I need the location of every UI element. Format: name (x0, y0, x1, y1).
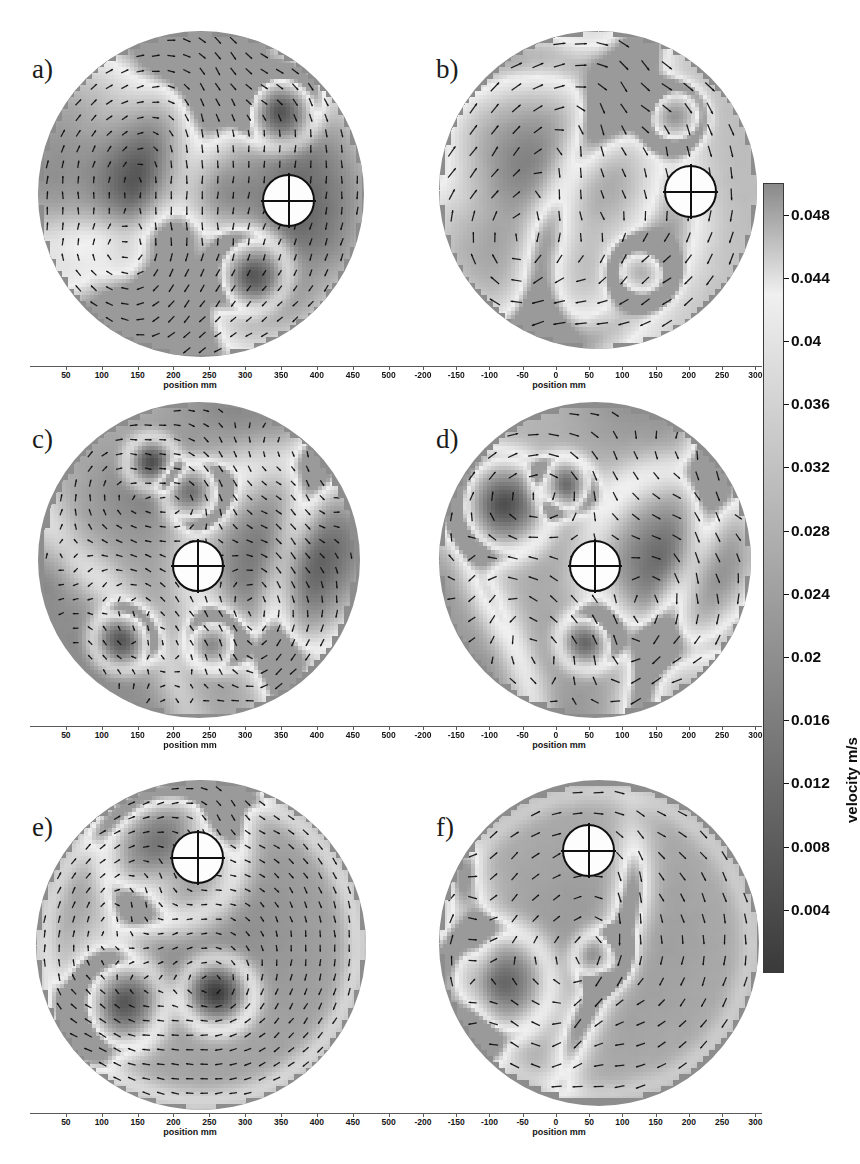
axis-tick-label: 0 (554, 1117, 559, 1127)
axis-row3-left: position mm 5010015020025030035040045050… (30, 1113, 403, 1141)
axis-tick-label: 300 (748, 1117, 762, 1127)
axis-tick-label: 500 (382, 370, 396, 380)
panel-c-probe-marker[interactable] (172, 540, 224, 592)
axis-row1-right-title: position mm (532, 380, 586, 390)
axis-tick-label: 0 (554, 370, 559, 380)
axis-tick-label: 100 (95, 1117, 109, 1127)
colorbar-tick (784, 910, 789, 911)
axis-tick-label: 250 (202, 1117, 216, 1127)
axis-tick-label: -50 (517, 730, 529, 740)
axis-tick-label: 300 (748, 370, 762, 380)
axis-tick-label: 150 (131, 1117, 145, 1127)
panel-c-plot-area (38, 402, 360, 718)
colorbar-tick (784, 657, 789, 658)
axis-tick-label: 300 (238, 730, 252, 740)
axis-tick-label: 500 (382, 730, 396, 740)
axis-tick-label: 100 (615, 730, 629, 740)
axis-tick-label: 100 (615, 1117, 629, 1127)
axis-tick-label: 0 (554, 730, 559, 740)
axis-tick-label: 200 (166, 730, 180, 740)
axis-tick-label: -200 (414, 1117, 431, 1127)
axis-row1-left-title: position mm (163, 380, 217, 390)
colorbar-tick (784, 467, 789, 468)
colorbar-tick-label: 0.004 (791, 902, 830, 918)
axis-row2-right-title: position mm (532, 740, 586, 750)
axis-tick-label: 150 (131, 370, 145, 380)
axis-tick-label: 450 (346, 1117, 360, 1127)
panel-f: f) (427, 762, 757, 1107)
axis-row2-left-line (30, 726, 403, 727)
axis-row3-left-line (30, 1113, 403, 1114)
axis-tick-label: -100 (481, 1117, 498, 1127)
colorbar-group: 0.0040.0080.0120.0160.020.0240.0280.0320… (763, 183, 854, 973)
colorbar-tick-label: 0.032 (791, 459, 830, 475)
axis-row1-left: position mm 5010015020025030035040045050… (30, 366, 403, 394)
axis-tick-label: 300 (238, 370, 252, 380)
axis-row1-left-line (30, 366, 403, 367)
axis-tick-label: 100 (95, 370, 109, 380)
colorbar-tick (784, 278, 789, 279)
panel-d-probe-marker[interactable] (569, 540, 621, 592)
axis-tick-label: 50 (584, 370, 593, 380)
axis-tick-label: 250 (715, 370, 729, 380)
axis-tick-label: 200 (166, 370, 180, 380)
colorbar-tick (784, 531, 789, 532)
colorbar-tick (784, 404, 789, 405)
axis-tick-label: 200 (682, 730, 696, 740)
colorbar-tick-label: 0.04 (791, 333, 821, 349)
axis-tick-label: 50 (584, 730, 593, 740)
axis-tick-label: 400 (310, 370, 324, 380)
colorbar-tick-label: 0.008 (791, 839, 830, 855)
axis-tick-label: 400 (310, 730, 324, 740)
axis-tick-label: 100 (95, 730, 109, 740)
axis-row3-right: position mm -200-150-100-500501001502002… (403, 1113, 762, 1141)
panel-b-plot-area (439, 31, 757, 349)
axis-tick-label: 200 (682, 370, 696, 380)
colorbar-tick (784, 783, 789, 784)
axis-tick-label: -150 (448, 730, 465, 740)
axis-tick-label: 300 (238, 1117, 252, 1127)
axis-tick-label: -150 (448, 1117, 465, 1127)
axis-tick-label: 150 (131, 730, 145, 740)
axis-row2-left: position mm 5010015020025030035040045050… (30, 726, 403, 754)
panel-e-plot-area (36, 780, 366, 1110)
axis-tick-label: -200 (414, 370, 431, 380)
axis-tick-label: 50 (61, 730, 70, 740)
axis-tick-label: 50 (584, 1117, 593, 1127)
panel-a-probe-marker[interactable] (262, 174, 315, 227)
axis-tick-label: -50 (517, 370, 529, 380)
axis-row3-left-title: position mm (163, 1127, 217, 1137)
axis-tick-label: 400 (310, 1117, 324, 1127)
axis-row2-left-title: position mm (163, 740, 217, 750)
colorbar-tick-label: 0.012 (791, 775, 830, 791)
axis-row1-right: position mm -200-150-100-500501001502002… (403, 366, 762, 394)
panel-e-probe-marker[interactable] (171, 831, 224, 884)
colorbar-tick-label: 0.044 (791, 270, 830, 286)
colorbar-gradient (763, 183, 784, 973)
colorbar-tick-label: 0.048 (791, 207, 830, 223)
axis-tick-label: 150 (649, 1117, 663, 1127)
axis-tick-label: 250 (202, 370, 216, 380)
axis-tick-label: 450 (346, 730, 360, 740)
panel-f-probe-marker[interactable] (562, 824, 615, 877)
panel-a-velocity-map (38, 31, 364, 357)
axis-tick-label: 500 (382, 1117, 396, 1127)
panel-b-probe-marker[interactable] (664, 165, 717, 218)
colorbar-tick-label: 0.036 (791, 396, 830, 412)
axis-tick-label: -150 (448, 370, 465, 380)
colorbar-tick-label: 0.016 (791, 712, 830, 728)
panel-d: d) (427, 398, 757, 718)
axis-tick-label: 200 (682, 1117, 696, 1127)
panel-c: c) (0, 398, 427, 718)
colorbar-tick (784, 594, 789, 595)
axis-tick-label: 50 (61, 1117, 70, 1127)
colorbar-tick (784, 341, 789, 342)
axis-tick-label: 350 (274, 1117, 288, 1127)
colorbar-tick (784, 847, 789, 848)
axis-tick-label: 250 (715, 730, 729, 740)
axis-tick-label: 300 (748, 730, 762, 740)
axis-row2-right: position mm -200-150-100-500501001502002… (403, 726, 762, 754)
panel-e: e) (0, 762, 427, 1107)
colorbar-title: velocity m/s (843, 737, 860, 823)
